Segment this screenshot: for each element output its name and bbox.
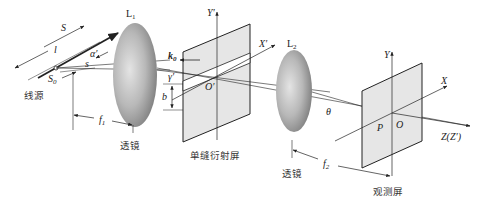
caption-lens2: 透镜 — [282, 168, 302, 179]
label-lens2: L2 — [287, 38, 297, 51]
label-s-small: s — [85, 58, 89, 69]
caption-observation-screen: 观测屏 — [373, 186, 403, 197]
observation-screen — [335, 52, 470, 176]
caption-slit-screen: 单缝衍射屏 — [190, 150, 240, 161]
label-lens1: L1 — [126, 8, 136, 21]
slit-screen — [172, 12, 275, 142]
label-s0: S0 — [48, 73, 57, 86]
label-alpha: α′ — [90, 48, 98, 59]
caption-lens1: 透镜 — [120, 140, 140, 151]
label-b: b — [162, 91, 167, 102]
label-o: O — [396, 119, 403, 130]
label-gamma: γ′ — [168, 71, 175, 82]
label-theta: θ — [326, 106, 331, 117]
caption-line-source: 线源 — [24, 90, 44, 101]
label-k0: k0 — [168, 50, 177, 63]
diffraction-diagram: S l α′ s S0 线源 L1 f1 透镜 Y′ X′ k0 γ′ b O′… — [0, 0, 477, 207]
label-length-l: l — [54, 44, 57, 55]
label-z: Z(Z′) — [441, 131, 462, 143]
label-p: P — [376, 122, 383, 133]
label-o-prime: O′ — [205, 81, 215, 92]
f1-arrow-left — [74, 115, 94, 118]
label-x: X — [440, 75, 448, 86]
f2-arrow-left — [293, 150, 318, 159]
label-f1: f1 — [99, 114, 105, 127]
label-s-line: S — [61, 22, 66, 33]
label-x-prime: X′ — [258, 38, 268, 49]
lens-1 — [113, 23, 157, 127]
label-y: Y — [384, 49, 391, 60]
label-y-prime: Y′ — [207, 7, 216, 18]
label-f2: f2 — [323, 158, 330, 171]
lens-2 — [276, 50, 312, 132]
